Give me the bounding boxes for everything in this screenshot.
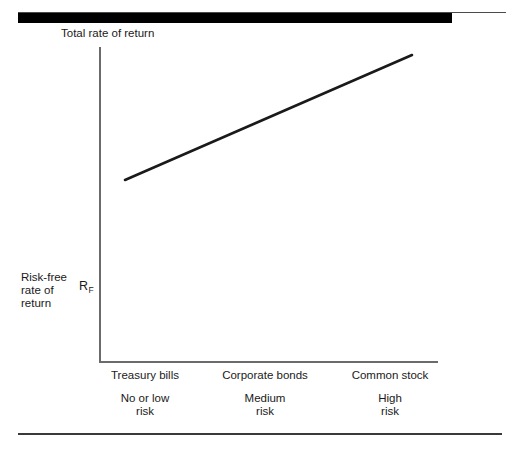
risk-level-line-2: risk (205, 405, 325, 418)
y-axis-title: Total rate of return (61, 27, 154, 40)
risk-level-line-1: Medium (205, 392, 325, 405)
risk-level-label: No or low risk (85, 392, 205, 418)
risk-level-line-2: risk (85, 405, 205, 418)
category-label: Common stock (330, 369, 450, 382)
risk-free-rate-line-2: rate of (21, 284, 76, 297)
risk-free-rate-label: Risk-free rate of return (21, 271, 76, 310)
risk-level-line-2: risk (330, 405, 450, 418)
risk-free-rate-symbol: RF (79, 279, 93, 294)
return-risk-line-chart (0, 0, 506, 453)
risk-level-line-1: No or low (85, 392, 205, 405)
y-axis-line (99, 47, 101, 363)
risk-free-rate-line-3: return (21, 297, 76, 310)
figure-container: Total rate of return Risk-free rate of r… (0, 0, 506, 453)
risk-free-rate-symbol-subscript: F (89, 285, 94, 295)
risk-level-line-1: High (330, 392, 450, 405)
bottom-rule (18, 433, 502, 435)
risk-level-label: Medium risk (205, 392, 325, 418)
top-black-bar (18, 13, 452, 23)
risk-level-label: High risk (330, 392, 450, 418)
x-axis-line (99, 361, 438, 363)
risk-free-rate-symbol-base: R (79, 279, 88, 293)
category-label: Treasury bills (85, 369, 205, 382)
total-return-line (125, 55, 412, 180)
risk-free-rate-line-1: Risk-free (21, 271, 76, 284)
category-label: Corporate bonds (205, 369, 325, 382)
